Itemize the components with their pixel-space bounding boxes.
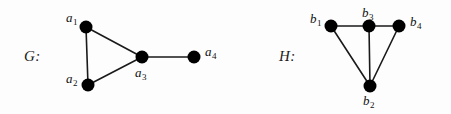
graph-node-a3: [136, 51, 149, 64]
node-label-a2: a2: [66, 72, 77, 85]
node-label-base-b1: b: [310, 11, 317, 26]
graph-edge-h-b4-b2: [370, 26, 399, 86]
graph-node-a1: [80, 21, 93, 34]
graph-node-b1: [325, 20, 338, 33]
node-label-a1: a1: [66, 11, 77, 24]
node-label-subscript-b2: 2: [370, 100, 375, 110]
graph-node-a2: [82, 79, 95, 92]
node-label-subscript-b1: 1: [317, 18, 322, 28]
graph-node-b2: [364, 80, 377, 93]
node-label-b4: b4: [410, 15, 421, 28]
node-label-b3: b3: [362, 6, 373, 19]
graph-name-label-g: G:: [24, 48, 41, 65]
node-label-base-a4: a: [205, 44, 212, 59]
node-label-base-a2: a: [66, 71, 73, 86]
node-label-base-a3: a: [135, 65, 142, 80]
graph-edge-g-a2-a3: [88, 57, 142, 85]
node-label-base-b2: b: [363, 93, 370, 108]
node-label-subscript-a3: 3: [142, 72, 147, 82]
nodes-layer: [80, 20, 406, 93]
graph-name-label-h: H:: [279, 48, 296, 65]
graph-edge-g-a1-a2: [86, 27, 88, 85]
edges-layer: [86, 26, 399, 86]
node-label-subscript-b3: 3: [369, 12, 374, 22]
node-label-subscript-a1: 1: [73, 17, 78, 27]
graph-node-b4: [393, 20, 406, 33]
graph-edge-h-b1-b2: [331, 26, 370, 86]
node-label-b1: b1: [310, 12, 321, 25]
node-label-a4: a4: [205, 45, 216, 58]
node-label-a3: a3: [135, 66, 146, 79]
graph-node-a4: [188, 51, 201, 64]
node-label-base-a1: a: [66, 10, 73, 25]
node-label-subscript-a2: 2: [73, 78, 78, 88]
graph-figure: a1a2a3a4G:b1b3b4b2H:: [0, 0, 451, 114]
node-label-subscript-b4: 4: [417, 21, 422, 31]
graph-edge-h-b3-b2: [369, 26, 370, 86]
node-label-base-b4: b: [410, 14, 417, 29]
node-label-subscript-a4: 4: [212, 51, 217, 61]
node-label-b2: b2: [363, 94, 374, 107]
graph-edge-g-a1-a3: [86, 27, 142, 57]
node-label-base-b3: b: [362, 5, 369, 20]
